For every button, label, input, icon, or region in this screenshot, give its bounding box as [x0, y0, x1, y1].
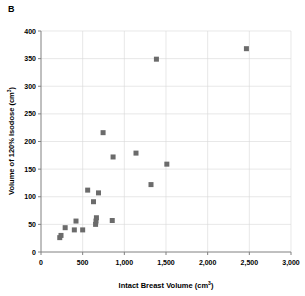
data-point: [134, 151, 139, 156]
tick-label-x: 3,000: [282, 259, 300, 267]
data-point: [244, 46, 249, 51]
data-point: [101, 130, 106, 135]
y-axis-title: Volume of 120% Isodose (cm3): [6, 86, 16, 195]
tick-label-y: 350: [24, 55, 36, 62]
tick-label-y: 400: [24, 28, 36, 35]
tick-label-x: 2,500: [241, 259, 259, 267]
data-point: [94, 215, 99, 220]
data-point: [110, 218, 115, 223]
data-point: [154, 57, 159, 62]
tick-label-y: 200: [24, 138, 36, 145]
tick-label-y: 50: [28, 221, 36, 228]
x-axis-title: Intact Breast Volume (cm3): [119, 280, 214, 290]
tick-label-y: 300: [24, 83, 36, 90]
tick-label-y: 150: [24, 166, 36, 173]
scatter-plot: 050100150200250300350400 05001,0001,5002…: [0, 0, 305, 296]
data-point: [72, 227, 77, 232]
tick-label-x: 1,500: [157, 259, 175, 267]
tick-label-y: 0: [32, 249, 36, 256]
tick-label-x: 0: [39, 259, 43, 266]
tick-label-x: 2,000: [199, 259, 217, 267]
data-point: [80, 227, 85, 232]
y-axis-tick-labels: 050100150200250300350400: [24, 28, 36, 256]
tick-label-y: 100: [24, 193, 36, 200]
data-point: [74, 219, 79, 224]
data-point: [85, 188, 90, 193]
data-point: [149, 182, 154, 187]
x-axis-tick-labels: 05001,0001,5002,0002,5003,000: [39, 259, 300, 267]
data-point: [111, 154, 116, 159]
data-point: [96, 190, 101, 195]
data-point: [63, 225, 68, 230]
figure-panel-b: B 050100150200250300350400 05001,0001,50…: [0, 0, 305, 296]
tick-label-x: 500: [77, 259, 89, 266]
tick-label-x: 1,000: [116, 259, 134, 267]
data-point: [91, 199, 96, 204]
data-point: [59, 233, 64, 238]
data-point: [164, 162, 169, 167]
tick-label-y: 250: [24, 110, 36, 117]
